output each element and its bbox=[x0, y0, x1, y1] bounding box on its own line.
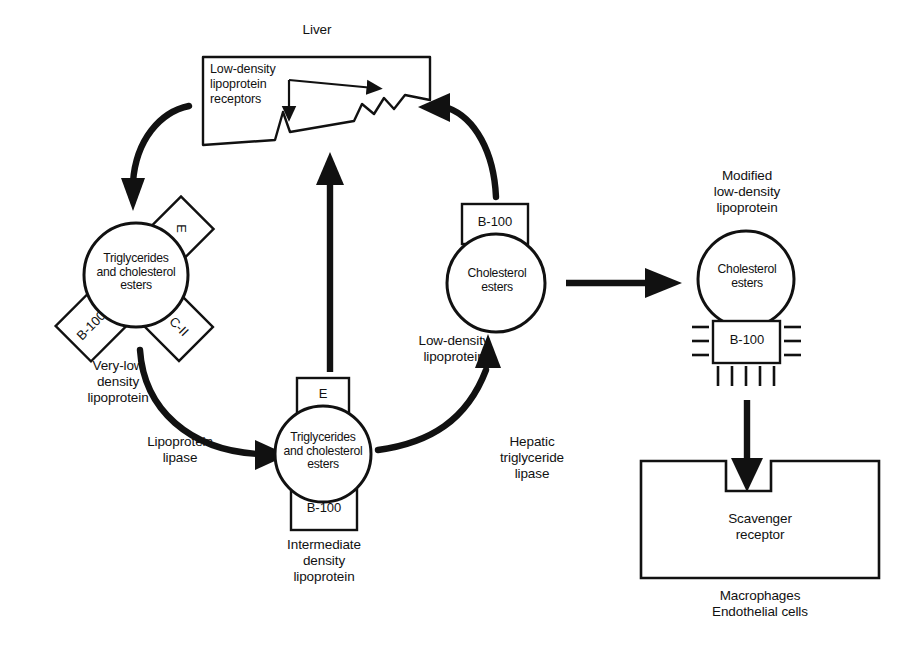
lipoprotein-lipase-label: Lipoprotein lipase bbox=[122, 434, 238, 466]
idl-apo-b100-label: B-100 bbox=[296, 500, 352, 515]
macrophage-caption: Macrophages Endothelial cells bbox=[672, 588, 848, 620]
liver-receptor-label: Low-density lipoprotein receptors bbox=[210, 62, 318, 106]
modified-ldl-caption: Modified low-density lipoprotein bbox=[686, 168, 808, 216]
ldl-core-text: Cholesterol esters bbox=[447, 267, 547, 294]
modified-ldl-apo-b100-label: B-100 bbox=[719, 332, 775, 347]
arrow-ldl-to-modified-ldl bbox=[566, 268, 682, 298]
ldl-caption: Low-density lipoprotein bbox=[398, 333, 510, 365]
vldl-apo-e-label: E bbox=[174, 219, 189, 239]
vldl-core-text: Triglycerides and cholesterol esters bbox=[83, 252, 189, 293]
scavenger-receptor-label: Scavenger receptor bbox=[700, 511, 820, 543]
diagram-vector-layer bbox=[0, 0, 920, 651]
arrow-liver-to-vldl bbox=[121, 106, 189, 211]
modified-ldl-particle bbox=[692, 231, 801, 386]
idl-caption: Intermediate density lipoprotein bbox=[266, 537, 382, 585]
arrow-ldl-to-liver bbox=[418, 93, 496, 197]
ldl-apo-b100-label: B-100 bbox=[467, 214, 523, 229]
idl-core-text: Triglycerides and cholesterol esters bbox=[270, 431, 376, 472]
idl-apo-e-label: E bbox=[313, 386, 333, 401]
modified-ldl-core-text: Cholesterol esters bbox=[697, 263, 797, 290]
arrow-modified-ldl-to-macrophage bbox=[731, 400, 763, 492]
vldl-caption: Very-low density lipoprotein bbox=[58, 358, 178, 406]
arrow-idl-to-liver bbox=[316, 152, 344, 372]
lipoprotein-metabolism-diagram: Liver Low-density lipoprotein receptors … bbox=[0, 0, 920, 651]
liver-title: Liver bbox=[272, 22, 362, 38]
hepatic-triglyceride-lipase-label: Hepatic triglyceride lipase bbox=[472, 434, 592, 482]
